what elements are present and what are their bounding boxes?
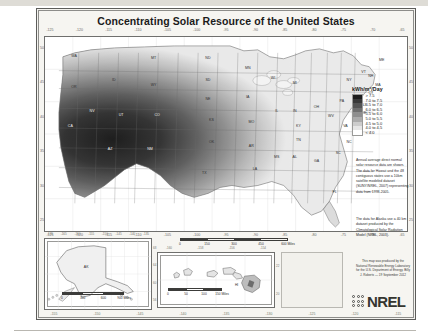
axis-tick-label: -135: [143, 232, 149, 236]
scan-fold-line: [14, 330, 416, 331]
note-satellite-dataset: Annual average direct normal solar resou…: [356, 158, 410, 195]
axis-tick-label: 64: [153, 263, 156, 267]
axis-tick-label: -125: [309, 312, 316, 316]
scalebar-tick-label: 0: [179, 242, 181, 246]
page-title: Concentrating Solar Resource of the Unit…: [40, 13, 412, 28]
scalebar-hawaii-labels: 050100150 Miles: [168, 292, 222, 297]
axis-tick-label: -80: [311, 233, 316, 237]
state-label-wy: WY: [151, 83, 157, 87]
axis-tick-label: -150: [94, 312, 101, 316]
axis-tick-label: 60: [153, 281, 156, 285]
axis-tick-label: 50: [409, 46, 413, 50]
state-label-va: VA: [343, 124, 348, 128]
bottom-lon-ticks: -155-150-145-140-135-130-125-120-115: [44, 312, 408, 319]
axis-tick-label: -150: [102, 232, 108, 236]
state-label-ca: CA: [68, 124, 74, 128]
legend: kWh/m²/Day > 7.57.0 to 7.56.5 to 7.06.0 …: [352, 86, 408, 135]
inset-hawaii[interactable]: HI: [157, 252, 275, 308]
axis-tick-label: 68: [153, 246, 156, 250]
state-label-me: ME: [379, 58, 385, 62]
legend-label: < 4.0: [366, 131, 375, 136]
state-label-ne: NE: [205, 97, 211, 101]
state-label-ky: KY: [296, 124, 301, 128]
axis-tick-label: -140: [129, 232, 135, 236]
state-label-wi: WI: [271, 76, 275, 80]
axis-tick-label: 35: [40, 149, 44, 153]
axis-tick-label: -95: [223, 28, 228, 32]
axis-tick-label: -70: [370, 28, 375, 32]
state-label-az: AZ: [108, 147, 113, 151]
axis-tick-label: -100: [193, 28, 200, 32]
state-label-mt: MT: [151, 56, 157, 60]
main-map-lat-ticks-left: 504540353025: [30, 36, 44, 232]
axis-tick-label: 50: [40, 46, 44, 50]
state-label-mn: MN: [245, 66, 251, 70]
state-label-ok: OK: [209, 140, 215, 144]
axis-tick-label: -156: [229, 246, 235, 250]
axis-tick-label: -75: [341, 28, 346, 32]
axis-tick-label: -165: [61, 232, 67, 236]
scalebar-tick-label: 150: [204, 242, 209, 246]
state-label-wa: WA: [71, 54, 77, 58]
axis-tick-label: 22: [276, 264, 279, 268]
state-label-sd: SD: [205, 78, 210, 82]
legend-swatch-list: > 7.57.0 to 7.56.5 to 7.06.0 to 6.55.5 t…: [352, 94, 408, 135]
axis-tick-label: 40: [40, 115, 44, 119]
scalebar-hawaii: 050100150 Miles: [168, 288, 222, 297]
inset-alaska-lon-ticks: -170-165-160-155-150-145-140-135: [44, 232, 152, 238]
state-label-wv: WV: [328, 114, 334, 118]
axis-tick-label: -95: [223, 233, 228, 237]
state-label-nd: ND: [205, 56, 211, 60]
scalebar-tick-label: 300: [231, 242, 236, 246]
state-label-nh: NH: [368, 74, 374, 78]
legend-title: kWh/m²/Day: [352, 86, 408, 92]
nrel-logo: NREL: [352, 292, 412, 311]
axis-tick-label: 40: [409, 115, 413, 119]
state-label-nm: NM: [147, 147, 153, 151]
state-label-mo: MO: [248, 120, 254, 124]
scalebar-tick-label: 50: [184, 292, 188, 296]
axis-tick-label: -110: [135, 28, 142, 32]
state-label-id: ID: [112, 78, 116, 82]
scalebar-tick-label: 0: [167, 292, 169, 296]
state-label-oh: OH: [314, 105, 320, 109]
axis-tick-label: 56: [153, 298, 156, 302]
axis-tick-label: -135: [223, 312, 230, 316]
state-label-ak: AK: [84, 265, 89, 269]
scalebar-tick-label: 450: [258, 242, 263, 246]
axis-tick-label: -75: [341, 233, 346, 237]
poster-root: Concentrating Solar Resource of the Unit…: [0, 0, 428, 335]
axis-tick-label: -100: [193, 233, 200, 237]
axis-tick-label: -125: [46, 28, 53, 32]
axis-tick-label: -145: [116, 232, 122, 236]
state-label-ar: AR: [249, 144, 254, 148]
state-label-hi: HI: [235, 283, 238, 287]
axis-tick-label: -90: [253, 233, 258, 237]
legend-swatch: [352, 130, 363, 136]
note-alaska-dataset: The data for Alaska use a 40 km dataset …: [356, 217, 410, 238]
axis-tick-label: -140: [180, 312, 187, 316]
axis-tick-label: -160: [166, 246, 172, 250]
legend-row: < 4.0: [352, 131, 408, 136]
state-label-nv: NV: [90, 109, 96, 113]
scalebar-tick-label: 300: [80, 296, 85, 300]
axis-tick-label: -170: [47, 232, 53, 236]
state-label-sc: SC: [336, 151, 341, 155]
axis-tick-label: 30: [40, 184, 44, 188]
state-label-in: IN: [293, 109, 297, 113]
axis-tick-label: -145: [137, 312, 144, 316]
state-label-or: OR: [71, 85, 77, 89]
blank-panel: [281, 252, 343, 308]
axis-tick-label: 35: [409, 149, 413, 153]
axis-tick-label: -115: [395, 312, 402, 316]
axis-tick-label: 45: [409, 80, 413, 84]
inset-hawaii-canvas: HI: [158, 253, 274, 307]
axis-tick-label: -155: [51, 312, 58, 316]
state-label-ks: KS: [209, 118, 214, 122]
state-label-tx: TX: [202, 171, 207, 175]
axis-tick-label: -160: [74, 232, 80, 236]
inset-hawaii-lon-ticks: -160-158-156-154: [157, 246, 275, 252]
scalebar-tick-label: 600: [101, 296, 106, 300]
nrel-logo-wordmark: NREL: [367, 294, 405, 309]
axis-tick-label: 25: [40, 218, 44, 222]
